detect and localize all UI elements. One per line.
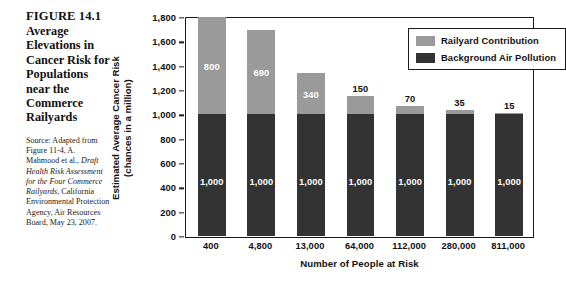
legend-item-railyard-contribution: Railyard Contribution bbox=[416, 34, 556, 47]
y-axis-tick-mark bbox=[179, 188, 184, 189]
y-axis-tick-label: 1,600 bbox=[152, 37, 176, 47]
bar-segment-background-air-pollution bbox=[247, 114, 275, 236]
bar-segment-background-air-pollution bbox=[446, 114, 474, 236]
figure-source-note: Source: Adapted from Figure 11-4, A. Mah… bbox=[26, 136, 110, 228]
bar-value-label-railyard: 690 bbox=[247, 68, 275, 78]
bar-segment-railyard-contribution bbox=[495, 113, 523, 115]
y-axis-tick-label: 1,000 bbox=[152, 110, 176, 120]
bar-column: 1,00070 bbox=[396, 106, 424, 236]
legend-swatch-railyard-contribution bbox=[416, 36, 435, 46]
figure-caption-block: FIGURE 14.1 Average Elevations in Cancer… bbox=[26, 9, 110, 228]
bar-value-label-railyard: 35 bbox=[446, 98, 474, 108]
bar-column: 1,000800 bbox=[198, 17, 226, 236]
x-axis-tick-label: 4,800 bbox=[236, 241, 286, 251]
bar-value-label-background: 1,000 bbox=[198, 177, 226, 187]
bar-segment-background-air-pollution bbox=[495, 114, 523, 236]
y-axis-tick-mark bbox=[179, 163, 184, 164]
bar-value-label-background: 1,000 bbox=[495, 177, 523, 187]
y-axis-tick-mark bbox=[179, 139, 184, 140]
y-axis-tick-mark bbox=[179, 236, 184, 237]
x-axis-tick-label: 13,000 bbox=[285, 241, 335, 251]
x-axis-tick-label: 112,000 bbox=[384, 241, 434, 251]
y-axis-tick-mark bbox=[179, 115, 184, 116]
legend-label-railyard-contribution: Railyard Contribution bbox=[441, 35, 539, 46]
x-axis-tick-label: 400 bbox=[186, 241, 236, 251]
y-axis-tick-label: 1,200 bbox=[152, 86, 176, 96]
bar-column: 1,000340 bbox=[297, 73, 325, 236]
bar-column: 1,000150 bbox=[347, 96, 375, 236]
bar-segment-railyard-contribution bbox=[347, 96, 375, 114]
y-axis-tick-mark bbox=[179, 66, 184, 67]
bar-value-label-railyard: 70 bbox=[396, 94, 424, 104]
chart-panel: 1,0008001,0006901,0003401,0001501,000701… bbox=[185, 17, 534, 238]
x-axis-tick-label: 64,000 bbox=[335, 241, 385, 251]
x-axis-tick-labels: 4004,80013,00064,000112,000280,000811,00… bbox=[185, 241, 534, 255]
x-axis-title: Number of People at Risk bbox=[185, 258, 534, 269]
bar-value-label-railyard: 150 bbox=[347, 84, 375, 94]
y-axis-tick-label: 200 bbox=[160, 208, 176, 218]
y-axis-tick-mark bbox=[179, 17, 184, 18]
bar-column: 1,000690 bbox=[247, 30, 275, 236]
bar-segment-background-air-pollution bbox=[198, 114, 226, 236]
y-axis-tick-label: 400 bbox=[160, 183, 176, 193]
y-axis-tick-label: 600 bbox=[160, 159, 176, 169]
y-axis-tick-label: 0 bbox=[171, 232, 176, 242]
bar-value-label-railyard: 15 bbox=[495, 101, 523, 111]
bar-segment-railyard-contribution bbox=[396, 106, 424, 115]
bar-value-label-railyard: 340 bbox=[297, 90, 325, 100]
bar-value-label-background: 1,000 bbox=[446, 177, 474, 187]
bar-value-label-background: 1,000 bbox=[247, 177, 275, 187]
y-axis-tick-label: 1,400 bbox=[152, 62, 176, 72]
bar-segment-railyard-contribution bbox=[446, 110, 474, 114]
x-axis-tick-label: 280,000 bbox=[434, 241, 484, 251]
figure-number: FIGURE 14.1 bbox=[26, 9, 110, 24]
bar-segment-background-air-pollution bbox=[396, 114, 424, 236]
y-axis-tick-mark bbox=[179, 90, 184, 91]
legend-item-background-air-pollution: Background Air Pollution bbox=[416, 51, 556, 64]
y-axis-title-line2: (chances in a million) bbox=[122, 79, 133, 177]
y-axis-title-line1: Estimated Average Cancer Risk bbox=[110, 56, 121, 200]
x-axis-tick-label: 811,000 bbox=[483, 241, 533, 251]
y-axis-tick-mark bbox=[179, 212, 184, 213]
y-axis-tick-labels: 02004006008001,0001,2001,4001,6001,800 bbox=[140, 0, 184, 284]
bar-column: 1,00035 bbox=[446, 110, 474, 236]
bar-value-label-background: 1,000 bbox=[297, 177, 325, 187]
figure-title: Average Elevations in Cancer Risk for Po… bbox=[26, 24, 110, 125]
y-axis-tick-label: 800 bbox=[160, 135, 176, 145]
legend-label-background-air-pollution: Background Air Pollution bbox=[441, 52, 556, 63]
bar-value-label-background: 1,000 bbox=[347, 177, 375, 187]
chart-legend: Railyard Contribution Background Air Pol… bbox=[408, 28, 566, 70]
bar-column: 1,00015 bbox=[495, 113, 523, 236]
bar-value-label-railyard: 800 bbox=[198, 62, 226, 72]
y-axis-tick-mark bbox=[179, 42, 184, 43]
legend-swatch-background-air-pollution bbox=[416, 53, 435, 63]
y-axis-tick-label: 1,800 bbox=[152, 13, 176, 23]
bar-segment-background-air-pollution bbox=[297, 114, 325, 236]
bar-value-label-background: 1,000 bbox=[396, 177, 424, 187]
bar-segment-background-air-pollution bbox=[347, 114, 375, 236]
